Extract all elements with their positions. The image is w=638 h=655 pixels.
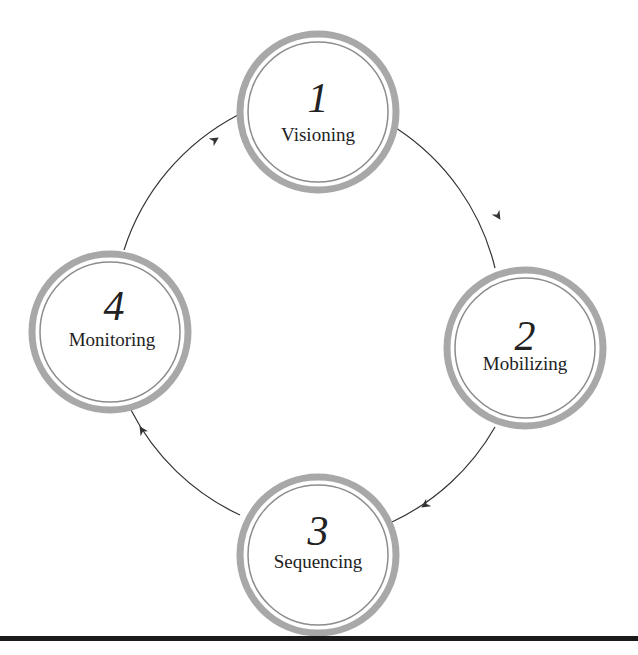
node-number: 1 <box>308 75 329 121</box>
node-sequencing: 3 Sequencing <box>240 477 396 633</box>
node-label: Mobilizing <box>483 353 568 374</box>
node-number: 4 <box>104 283 125 329</box>
arrow-2-to-3 <box>392 427 495 522</box>
arrowhead-1-to-2 <box>396 128 498 216</box>
arrow-1-to-2 <box>396 128 495 268</box>
cycle-diagram: 1 Visioning 2 Mobilizing 3 Sequencing 4 … <box>0 0 638 655</box>
node-mobilizing: 2 Mobilizing <box>447 270 603 426</box>
node-monitoring: 4 Monitoring <box>32 254 188 410</box>
node-label: Monitoring <box>69 329 156 350</box>
arrow-3-to-4 <box>131 410 240 515</box>
arrowhead-3-to-4 <box>142 430 240 515</box>
node-label: Visioning <box>281 124 355 145</box>
arrow-4-to-1 <box>124 115 238 250</box>
arrowhead-4-to-1 <box>124 140 215 250</box>
node-number: 3 <box>307 508 329 554</box>
bottom-rule <box>0 636 638 641</box>
node-label: Sequencing <box>274 551 363 572</box>
node-visioning: 1 Visioning <box>240 34 396 190</box>
arrowhead-2-to-3 <box>425 427 495 505</box>
